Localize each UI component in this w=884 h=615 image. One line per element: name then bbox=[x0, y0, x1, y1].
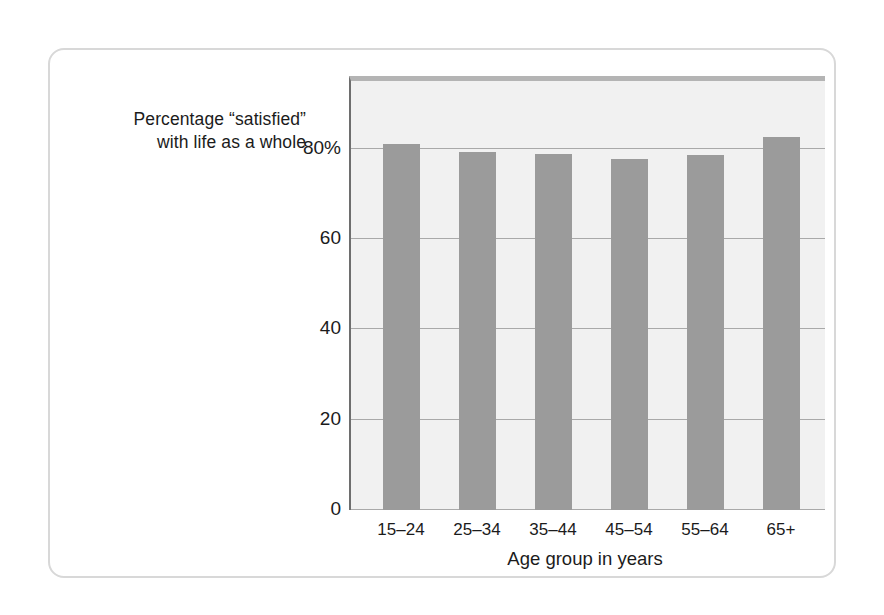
bar-group: 35–44 bbox=[515, 76, 591, 510]
plot-area: 020406080% 15–2425–3435–4445–5455–6465+ bbox=[349, 76, 825, 510]
x-axis-tick-label: 35–44 bbox=[515, 520, 591, 540]
bar bbox=[687, 155, 724, 510]
x-axis-tick-label: 25–34 bbox=[439, 520, 515, 540]
figure-card: Percentage “satisfied” with life as a wh… bbox=[48, 48, 836, 578]
y-axis-tick-label: 40 bbox=[320, 317, 341, 339]
bar bbox=[611, 159, 648, 510]
bar-group: 65+ bbox=[743, 76, 819, 510]
x-axis-tick-label: 55–64 bbox=[667, 520, 743, 540]
x-axis-tick-label: 65+ bbox=[743, 520, 819, 540]
bar bbox=[383, 144, 420, 510]
y-axis-title-line-1: Percentage “satisfied” bbox=[60, 108, 306, 131]
bar-group: 25–34 bbox=[439, 76, 515, 510]
y-axis-tick-label: 80% bbox=[303, 137, 341, 159]
y-axis-tick-label: 60 bbox=[320, 227, 341, 249]
bar bbox=[459, 152, 496, 510]
bar bbox=[763, 137, 800, 510]
bar-group: 45–54 bbox=[591, 76, 667, 510]
x-axis-tick-label: 15–24 bbox=[363, 520, 439, 540]
bar-group: 55–64 bbox=[667, 76, 743, 510]
y-axis-tick-label: 20 bbox=[320, 408, 341, 430]
bar bbox=[535, 154, 572, 510]
y-axis-title: Percentage “satisfied” with life as a wh… bbox=[60, 108, 306, 154]
x-axis-title: Age group in years bbox=[349, 548, 821, 570]
bar-group: 15–24 bbox=[363, 76, 439, 510]
y-axis-tick-label: 0 bbox=[330, 498, 341, 520]
plot-area-wrapper: 020406080% 15–2425–3435–4445–5455–6465+ bbox=[349, 76, 825, 510]
bar-series: 15–2425–3435–4445–5455–6465+ bbox=[353, 81, 825, 510]
y-axis-title-line-2: with life as a whole bbox=[60, 131, 306, 154]
x-axis-tick-label: 45–54 bbox=[591, 520, 667, 540]
